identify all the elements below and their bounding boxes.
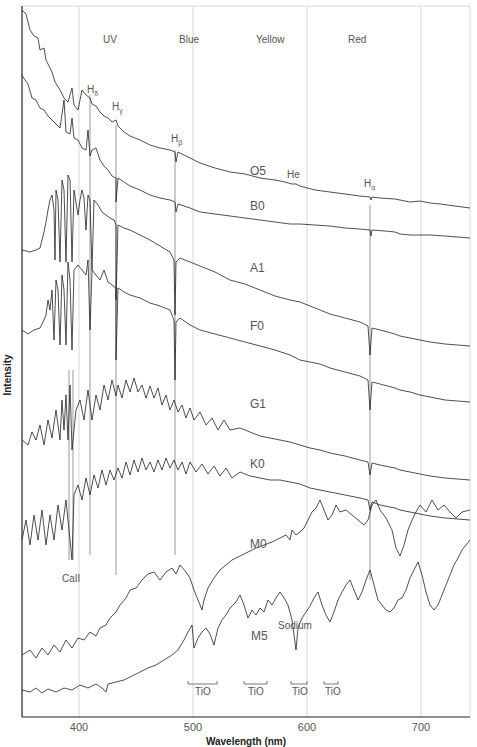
class-label-k0: K0 <box>250 457 265 471</box>
tio-label-3: TiO <box>292 686 308 697</box>
class-label-a1: A1 <box>250 261 265 275</box>
band-label-red: Red <box>348 34 366 45</box>
spectrum-G1 <box>22 378 470 480</box>
band-label-yellow: Yellow <box>256 34 285 45</box>
line-label-he: He <box>287 169 300 180</box>
line-label-h-delta: Hδ <box>87 84 98 97</box>
band-label-uv: UV <box>103 34 117 45</box>
class-label-m5: M5 <box>251 629 268 643</box>
tio-label-4: TiO <box>325 686 341 697</box>
spectrum-B0 <box>22 75 470 238</box>
spectrum-M5 <box>22 540 470 693</box>
x-axis-title: Wavelength (nm) <box>206 736 286 747</box>
class-label-f0: F0 <box>250 319 264 333</box>
class-label-b0: B0 <box>250 199 265 213</box>
spectrum-K0 <box>22 458 470 560</box>
spectra-chart: UV Blue Yellow Red O5 B0 A1 F0 G1 K0 M0 … <box>0 0 477 747</box>
x-tick-600: 600 <box>298 721 316 733</box>
spectrum-M0 <box>22 500 470 658</box>
line-label-h-gamma: Hγ <box>112 101 123 115</box>
line-label-h-beta: Hβ <box>171 133 182 147</box>
class-label-m0: M0 <box>250 537 267 551</box>
spectrum-A1 <box>22 175 470 355</box>
spectrum-O5 <box>22 10 470 208</box>
tio-label-2: TiO <box>248 686 264 697</box>
tio-brackets <box>188 681 338 684</box>
class-label-o5: O5 <box>250 164 266 178</box>
line-label-sodium: Sodium <box>278 620 312 631</box>
x-tick-700: 700 <box>412 721 430 733</box>
x-tick-400: 400 <box>70 721 88 733</box>
tio-label-1: TiO <box>195 686 211 697</box>
x-tick-500: 500 <box>184 721 202 733</box>
spectrum-F0 <box>22 260 470 410</box>
band-label-blue: Blue <box>179 34 199 45</box>
line-markers <box>69 95 370 580</box>
y-axis-title: Intensity <box>2 354 13 396</box>
line-label-caii: CaII <box>62 573 80 584</box>
class-label-g1: G1 <box>250 397 266 411</box>
line-label-h-alpha: Hα <box>364 178 375 191</box>
